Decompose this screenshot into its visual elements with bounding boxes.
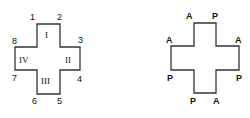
- region-label-i: I: [45, 30, 48, 40]
- region-label-iv: IV: [19, 55, 29, 65]
- figure-canvas: 1 2 3 4 5 6 7 8 I II III IV A P A P A P …: [0, 0, 250, 118]
- vertex-label-6: 6: [32, 96, 37, 106]
- vertex-label-7: 7: [12, 73, 17, 83]
- vertex-label-left-upper: A: [166, 35, 173, 45]
- vertex-label-left-lower: P: [167, 73, 173, 83]
- left-cross-figure: 1 2 3 4 5 6 7 8 I II III IV: [12, 12, 83, 106]
- vertex-label-2: 2: [57, 12, 62, 22]
- vertex-label-bottom-left: P: [190, 96, 196, 106]
- vertex-label-right-upper: A: [235, 35, 242, 45]
- vertex-label-8: 8: [12, 36, 17, 46]
- vertex-label-5: 5: [57, 96, 62, 106]
- vertex-label-bottom-right: A: [213, 96, 220, 106]
- right-cross-figure: A P A P A P P A: [166, 11, 242, 106]
- vertex-label-1: 1: [30, 12, 35, 22]
- right-cross-outline: [171, 23, 239, 93]
- region-label-ii: II: [65, 55, 71, 65]
- vertex-label-right-lower: P: [236, 73, 242, 83]
- vertex-label-top-left: A: [186, 11, 193, 21]
- vertex-label-4: 4: [77, 74, 82, 84]
- region-label-iii: III: [41, 76, 50, 86]
- vertex-label-top-right: P: [212, 11, 218, 21]
- vertex-label-3: 3: [78, 35, 83, 45]
